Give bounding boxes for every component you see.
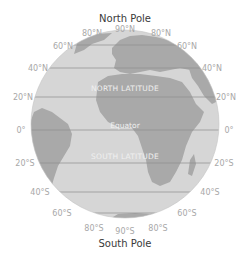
label-0-left: 0° [16, 126, 25, 135]
label-20s-right: 20°S [214, 159, 233, 168]
label-20s-left: 20°S [15, 159, 34, 168]
label-80s-right: 80°S [148, 224, 167, 233]
north-latitude-label: NORTH LATITUDE [91, 84, 159, 93]
label-40n-right: 40°N [202, 64, 222, 73]
label-60s-left: 60°S [52, 209, 71, 218]
label-40s-left: 40°S [30, 188, 49, 197]
label-40s-right: 40°S [200, 188, 219, 197]
label-60n-right: 60°N [177, 42, 197, 51]
label-60n-left: 60°N [53, 42, 73, 51]
label-80s-left: 80°S [84, 224, 103, 233]
globe-diagram: NORTH LATITUDE Equator SOUTH LATITUDE No… [0, 0, 248, 253]
label-20n-right: 20°N [216, 93, 236, 102]
label-90s: 90°S [115, 227, 134, 236]
south-pole-title: South Pole [99, 238, 152, 249]
label-80n-right: 80°N [151, 29, 171, 38]
label-80n-left: 80°N [82, 29, 102, 38]
label-20n-left: 20°N [13, 93, 33, 102]
equator-label: Equator [110, 121, 140, 130]
label-60s-right: 60°S [177, 209, 196, 218]
label-40n-left: 40°N [28, 64, 48, 73]
label-90n: 90°N [115, 25, 135, 34]
south-latitude-label: SOUTH LATITUDE [91, 152, 159, 161]
label-0-right: 0° [224, 126, 233, 135]
north-pole-title: North Pole [99, 13, 151, 24]
